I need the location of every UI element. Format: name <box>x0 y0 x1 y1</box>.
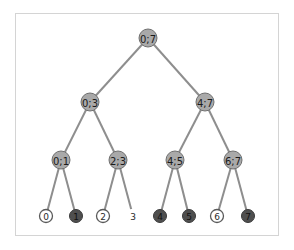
tree-node-0-1: 0;1 <box>52 151 70 169</box>
tree-node-0-3: 0;3 <box>81 93 99 111</box>
edge-root-n47 <box>148 38 205 102</box>
node-label: 0;3 <box>82 98 98 109</box>
leaf-label: 4 <box>157 212 163 222</box>
leaf-label: 6 <box>214 212 220 222</box>
node-label: 4;5 <box>167 156 183 167</box>
tree-edges <box>46 38 248 216</box>
tree-leaf-3: 3 <box>127 210 140 223</box>
tree-node-root: 0;7 <box>139 29 157 47</box>
edge-root-n03 <box>90 38 148 102</box>
tree-node-2-3: 2;3 <box>109 151 127 169</box>
node-label: 0;1 <box>53 156 69 167</box>
tree-node-4-5: 4;5 <box>166 151 184 169</box>
tree-leaf-4: 4 <box>154 210 167 223</box>
tree-leaf-1: 1 <box>70 210 83 223</box>
tree-node-4-7: 4;7 <box>196 93 214 111</box>
tree-leaf-6: 6 <box>211 210 224 223</box>
edge-n47-n67 <box>205 102 233 160</box>
node-label: 0;7 <box>140 34 156 45</box>
leaf-label: 7 <box>245 212 251 222</box>
node-label: 2;3 <box>110 156 126 167</box>
tree-leaf-5: 5 <box>183 210 196 223</box>
edge-n47-n45 <box>175 102 205 160</box>
edge-n03-n23 <box>90 102 118 160</box>
tree-leaf-7: 7 <box>242 210 255 223</box>
edge-n03-n01 <box>61 102 90 160</box>
tree-node-6-7: 6;7 <box>224 151 242 169</box>
leaf-label: 3 <box>130 212 136 222</box>
leaf-label: 1 <box>73 212 79 222</box>
tree-leaf-0: 0 <box>40 210 53 223</box>
leaf-label: 0 <box>43 212 49 222</box>
leaf-label: 2 <box>100 212 106 222</box>
tree-leaf-2: 2 <box>97 210 110 223</box>
node-label: 6;7 <box>225 156 241 167</box>
node-label: 4;7 <box>197 98 213 109</box>
binary-tree-diagram: 0;7 0;3 4;7 0;1 2;3 4;5 6;7 0 1 2 3 <box>0 0 294 250</box>
leaf-label: 5 <box>186 212 192 222</box>
